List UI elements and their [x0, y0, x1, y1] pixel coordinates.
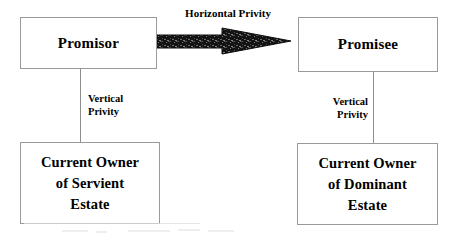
node-dominant-label: Current Owner of Dominant Estate — [318, 153, 416, 216]
scan-artifact — [128, 230, 170, 232]
node-current-owner-dominant-estate: Current Owner of Dominant Estate — [297, 143, 438, 225]
horizontal-privity-arrow-icon — [156, 26, 292, 56]
node-servient-label: Current Owner of Servient Estate — [41, 152, 139, 215]
scan-artifact — [96, 231, 107, 233]
scan-artifact — [62, 230, 88, 232]
privity-diagram: Horizontal Privity Promisor Promisee Ver… — [0, 0, 457, 241]
node-promisee: Promisee — [298, 17, 438, 72]
vertical-privity-label-right: Vertical Privity — [268, 95, 368, 121]
node-promisor-label: Promisor — [58, 35, 119, 52]
horizontal-privity-label: Horizontal Privity — [168, 7, 288, 19]
node-current-owner-servient-estate: Current Owner of Servient Estate — [20, 142, 160, 224]
node-promisor: Promisor — [20, 17, 157, 69]
vertical-privity-line-left — [80, 69, 81, 143]
vertical-privity-label-left: Vertical Privity — [88, 92, 123, 118]
vertical-privity-line-right — [373, 72, 374, 143]
scan-artifact — [208, 230, 234, 232]
node-promisee-label: Promisee — [338, 36, 398, 53]
scan-artifact — [178, 229, 200, 231]
scan-artifact — [24, 223, 200, 224]
